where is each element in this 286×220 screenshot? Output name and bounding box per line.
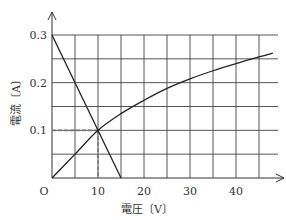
y-tick-label: 0.3 [30, 29, 48, 42]
x-tick-label: 40 [229, 185, 243, 198]
y-axis-label: 電流〔A〕 [9, 74, 23, 126]
origin-label: O [39, 185, 48, 198]
axes [48, 12, 284, 182]
iv-chart: 102030400.10.20.3 電流〔A〕 電圧〔V〕 O [0, 0, 286, 220]
y-tick-label: 0.2 [30, 77, 48, 90]
x-tick-label: 20 [137, 185, 151, 198]
x-axis-label: 電圧〔V〕 [121, 203, 173, 216]
y-tick-label: 0.1 [30, 124, 48, 137]
x-tick-label: 10 [91, 185, 105, 198]
x-tick-label: 30 [183, 185, 197, 198]
curve-series-increasing [52, 53, 273, 178]
